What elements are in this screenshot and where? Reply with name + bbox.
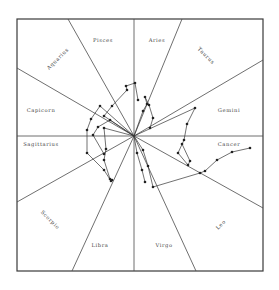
- track-point-marker: [187, 164, 190, 167]
- track-lower-center: [134, 136, 145, 182]
- track-point-marker: [177, 152, 180, 155]
- sign-label-gemini: Gemini: [218, 107, 240, 113]
- track-point-marker: [137, 99, 140, 102]
- sector-divider-line: [134, 60, 263, 136]
- track-point-marker: [204, 170, 207, 173]
- sign-label-libra: Libra: [92, 242, 109, 248]
- orbit-tracks: [86, 82, 252, 189]
- track-point-marker: [105, 148, 108, 151]
- track-point-marker: [141, 169, 144, 172]
- sign-label-pisces: Pisces: [93, 37, 113, 43]
- track-point-marker: [152, 186, 155, 189]
- track-point-marker: [181, 143, 184, 146]
- track-point-marker: [103, 153, 106, 156]
- track-point-marker: [148, 104, 151, 107]
- sign-label-taurus: Taurus: [197, 46, 217, 66]
- sign-label-capricorn: Capicorn: [27, 107, 56, 114]
- track-point-marker: [134, 82, 137, 85]
- sector-divider-line: [134, 136, 196, 271]
- track-point-marker: [99, 105, 102, 108]
- sector-divider-line: [134, 136, 263, 208]
- track-point-marker: [109, 119, 112, 122]
- track-point-marker: [249, 147, 252, 150]
- track-point-marker: [194, 107, 197, 110]
- track-point-marker: [144, 96, 147, 99]
- track-point-marker: [86, 152, 89, 155]
- track-point-marker: [189, 160, 192, 163]
- track-point-marker: [92, 134, 95, 137]
- sign-label-aries: Aries: [148, 37, 166, 43]
- track-point-marker: [142, 149, 145, 152]
- track-point-marker: [147, 165, 150, 168]
- track-point-marker: [97, 126, 100, 129]
- track-point-marker: [103, 159, 106, 162]
- track-point-marker: [111, 179, 114, 182]
- track-point-marker: [144, 181, 147, 184]
- track-point-marker: [103, 127, 106, 130]
- track-point-marker: [136, 152, 139, 155]
- track-point-marker: [90, 118, 93, 121]
- track-point-marker: [216, 159, 219, 162]
- track-point-marker: [86, 129, 89, 132]
- sign-label-leo: Leo: [214, 218, 226, 230]
- track-point-marker: [125, 85, 128, 88]
- sign-label-sagittarius: Sagittarius: [23, 141, 59, 148]
- sector-divider-line: [17, 68, 134, 136]
- track-point-marker: [111, 105, 114, 108]
- sign-labels: PiscesAriesTaurusGeminiCancerLeoVirgoLib…: [23, 37, 240, 249]
- track-point-marker: [103, 115, 106, 118]
- track-point-marker: [183, 139, 186, 142]
- sign-label-cancer: Cancer: [218, 141, 240, 147]
- track-point-marker: [231, 151, 234, 154]
- track-point-marker: [126, 89, 129, 92]
- track-point-marker: [199, 172, 202, 175]
- zodiac-sector-diagram: PiscesAriesTaurusGeminiCancerLeoVirgoLib…: [0, 0, 279, 290]
- track-point-marker: [142, 110, 145, 113]
- sign-label-virgo: Virgo: [154, 242, 172, 249]
- track-point-marker: [186, 123, 189, 126]
- sector-divider-line: [72, 136, 134, 271]
- track-left-loop-1: [87, 106, 134, 181]
- sign-label-aquarius: Aquarius: [45, 46, 71, 72]
- sign-label-scorpio: Scorpio: [39, 209, 61, 231]
- track-point-marker: [152, 117, 155, 120]
- track-point-marker: [103, 169, 106, 172]
